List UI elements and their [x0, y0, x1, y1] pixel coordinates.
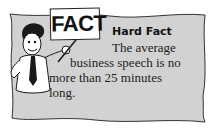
body-line: long.	[49, 85, 199, 100]
body-line: business speech is no	[49, 55, 199, 70]
callout-body: The average business speech is no more t…	[49, 40, 199, 100]
hard-fact-callout: FACT Hard Fact The average business spee…	[0, 0, 212, 133]
fact-sign: FACT	[50, 8, 101, 41]
body-line: The average	[49, 40, 199, 55]
callout-title: Hard Fact	[112, 25, 172, 38]
body-line: more than 25 minutes	[49, 70, 199, 85]
